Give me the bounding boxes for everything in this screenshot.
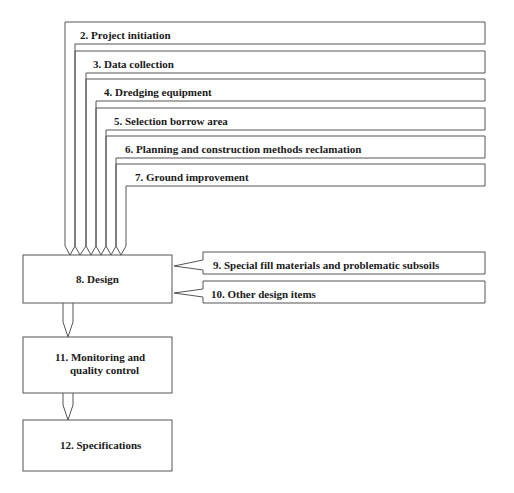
step-2-label: 2. Project initiation [80, 29, 171, 42]
step-9-label: 9. Special fill materials and problemati… [213, 259, 439, 272]
step-4-label: 4. Dredging equipment [104, 86, 212, 99]
flowchart-canvas [0, 0, 514, 493]
arrow-design-to-monitoring [63, 303, 73, 337]
step-6-label: 6. Planning and construction methods rec… [125, 143, 361, 156]
step-5-label: 5. Selection borrow area [114, 115, 228, 128]
arrow-monitoring-to-specifications [63, 393, 73, 420]
step-4-box [86, 79, 485, 246]
monitoring-label-line2: quality control [70, 364, 139, 377]
input-arrowheads [65, 246, 126, 255]
design-label: 8. Design [23, 273, 172, 286]
step-3-label: 3. Data collection [93, 58, 174, 71]
step-10-label: 10. Other design items [211, 288, 316, 301]
specifications-label: 12. Specifications [60, 439, 141, 452]
monitoring-label-line1: 11. Monitoring and [55, 351, 145, 364]
step-7-label: 7. Ground improvement [135, 171, 249, 184]
step-2-box [65, 22, 485, 246]
